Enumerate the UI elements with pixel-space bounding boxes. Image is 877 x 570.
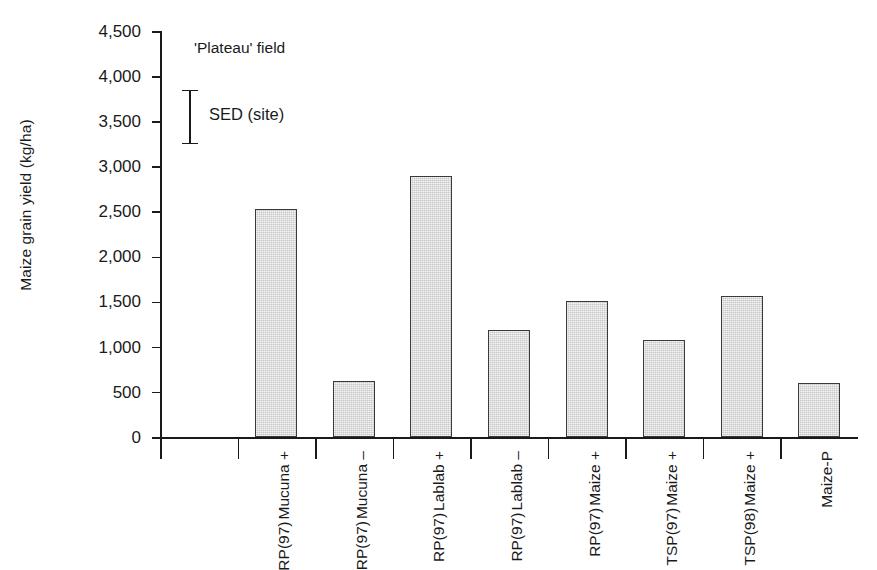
y-axis-title: Maize grain yield (kg/ha): [17, 55, 35, 355]
bar: [798, 383, 840, 437]
y-tick: 2,500: [152, 211, 160, 213]
x-axis-label: Maize-P: [819, 451, 847, 570]
x-axis-label: Maize +TSP(98): [742, 451, 770, 570]
y-tick: 3,500: [152, 121, 160, 123]
bar: [488, 330, 530, 437]
bar: [410, 176, 452, 437]
x-label-line-1: Lablab –: [509, 451, 525, 510]
y-tick-label: 500: [113, 383, 141, 403]
y-axis-line: [160, 31, 162, 437]
y-tick: 500: [152, 392, 160, 394]
field-annotation: 'Plateau' field: [194, 39, 285, 57]
x-axis-label: Lablab +RP(97): [431, 451, 459, 570]
y-tick-label: 0: [132, 428, 141, 448]
x-label-line-2: RP(97): [431, 513, 447, 562]
y-tick-label: 1,000: [98, 338, 141, 358]
bar: [333, 381, 375, 437]
x-axis-label: Maize +TSP(97): [664, 451, 692, 570]
x-axis-label: Lablab –RP(97): [509, 451, 537, 570]
chart-figure: Maize grain yield (kg/ha) 05001,0001,500…: [0, 0, 877, 570]
y-tick-label: 2,500: [98, 202, 141, 222]
bar: [566, 301, 608, 437]
y-tick-label: 4,000: [98, 67, 141, 87]
x-axis-label: Mucuna +RP(97): [276, 451, 304, 570]
bar: [643, 340, 685, 437]
sed-cap-bottom: [182, 143, 198, 145]
bar: [721, 296, 763, 437]
x-axis-labels: Mucuna +RP(97)Mucuna –RP(97)Lablab +RP(9…: [160, 437, 858, 570]
y-tick: 4,500: [152, 31, 160, 33]
x-label-line-1: Mucuna –: [354, 451, 370, 519]
x-label-line-1: Lablab +: [431, 451, 447, 511]
x-label-line-1: Mucuna +: [276, 451, 292, 520]
x-label-line-2: TSP(97): [664, 508, 680, 566]
x-axis-label: Mucuna –RP(97): [354, 451, 382, 570]
y-tick-label: 4,500: [98, 22, 141, 42]
x-label-line-1: Maize +: [587, 451, 603, 506]
x-label-line-1: Maize-P: [819, 451, 835, 508]
x-label-line-2: RP(97): [587, 508, 603, 557]
sed-error-indicator: SED (site): [178, 88, 348, 146]
sed-label: SED (site): [209, 105, 284, 124]
x-label-line-2: TSP(98): [742, 508, 758, 566]
y-tick: 4,000: [152, 76, 160, 78]
y-tick-label: 3,500: [98, 112, 141, 132]
y-tick: 0: [152, 437, 160, 439]
y-tick: 3,000: [152, 166, 160, 168]
bar: [255, 209, 297, 437]
x-label-line-1: Maize +: [664, 451, 680, 506]
x-label-line-2: RP(97): [509, 512, 525, 561]
x-label-line-1: Maize +: [742, 451, 758, 506]
y-tick: 1,500: [152, 302, 160, 304]
x-label-line-2: RP(97): [276, 522, 292, 570]
y-tick: 2,000: [152, 257, 160, 259]
y-tick-label: 3,000: [98, 157, 141, 177]
y-tick-label: 1,500: [98, 292, 141, 312]
x-label-line-2: RP(97): [354, 521, 370, 570]
y-tick: 1,000: [152, 347, 160, 349]
sed-bar: [189, 90, 191, 144]
y-tick-label: 2,000: [98, 247, 141, 267]
x-axis-label: Maize +RP(97): [587, 451, 615, 570]
